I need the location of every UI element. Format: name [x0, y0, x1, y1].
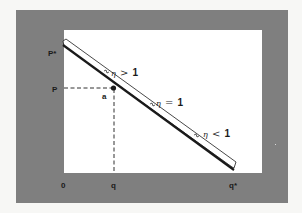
axis-label-p-star: P*	[48, 49, 57, 58]
point-a-marker	[111, 85, 116, 90]
axis-label-q-star: q*	[229, 181, 238, 190]
axis-label-q: q	[111, 181, 116, 190]
region-label-inelastic: η < 1	[203, 128, 231, 139]
demand-diagram: a η > 1 η = 1 η < 1 P* P 0 q q*	[0, 0, 302, 213]
region-label-elastic: η > 1	[111, 67, 139, 78]
demand-curve-strip	[63, 39, 236, 168]
region-label-unit: η = 1	[156, 97, 184, 108]
axis-label-p: P	[52, 85, 58, 94]
point-a-label: a	[102, 92, 107, 101]
demand-curve	[63, 45, 234, 170]
axis-label-origin: 0	[61, 181, 66, 190]
